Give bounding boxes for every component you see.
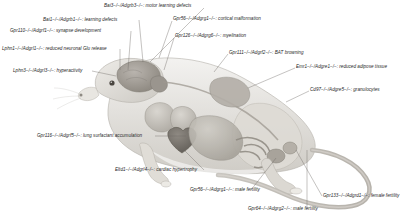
annotation-gpr56-cortical-malformation: Gpr56−/−/Adgrg1−/−: cortical malformatio… (173, 17, 261, 22)
annotation-bai3-motor-learning: Bai3−/−/Adgrb3−/−: motor learning defect… (104, 4, 191, 9)
annotation-bai1-learning: Bai1−/−/Adgrb1−/−: learning defects (43, 18, 117, 23)
annotation-gpr133-female-fertility: Gpr133−/−/Adgrd1−/−: female fertility (323, 194, 399, 199)
annotation-gpr116-lung-surfactant: Gpr116−/−/Adgrf5−/−: lung surfactant acc… (37, 134, 142, 139)
annotation-gpr110-synapse: Gpr110−/−/Adgrf1−/−: synapse development (10, 29, 101, 34)
annotation-gpr126-myelination: Gpr126−/−/Adgrg6−/−: myelination (175, 34, 246, 39)
annotation-emr1-adipose: Emr1−/−/Adgre1−/−: reduced adipose tissu… (296, 65, 387, 70)
annotation-lphn1-glu-release: Lphn1−/−/Adgrl1−/−: reduced neuronal Glu… (2, 47, 107, 52)
mouse-phenotype-figure: Bai3−/−/Adgrb3−/−: motor learning defect… (0, 0, 415, 219)
annotation-lphn3-hyperactivity: Lphn3−/−/Adgrl3−/−: hyperactivity (13, 69, 82, 74)
annotation-cd97-granulocytes: Cd97−/−/Adgre5−/−: granulocytes (310, 88, 380, 93)
annotation-eltd1-cardiac-hypertrophy: Eltd1−/−/Adgrl4−/−: cardiac hypertrophy (115, 168, 197, 173)
annotation-gpr111-bat-browning: Gpr111−/−/Adgrf2−/−: BAT browning (229, 51, 303, 56)
annotation-gpr56-male-fertility: Gpr56−/−/Adgrg1−/−: male fertility (190, 188, 260, 193)
annotation-gpr64-male-fertility: Gpr64−/−/Adgrg2−/−: male fertility (248, 207, 318, 212)
